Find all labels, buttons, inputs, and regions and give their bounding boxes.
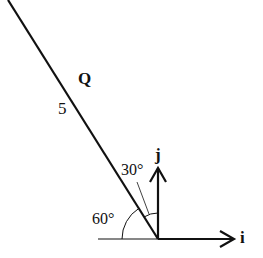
angle-arc-60 (122, 209, 139, 240)
vector-diagram: Q 5 30° 60° j i (0, 0, 263, 258)
angle-60-label: 60° (92, 211, 114, 227)
vector-diagram-svg (0, 0, 263, 258)
vector-magnitude-label: 5 (58, 100, 67, 117)
unit-i-label: i (240, 229, 245, 246)
vector-q-line (8, 0, 158, 239)
angle-arc-30 (144, 213, 158, 217)
angle-30-label: 30° (121, 162, 143, 178)
vector-q-label: Q (78, 70, 91, 87)
unit-j-label: j (155, 146, 161, 163)
